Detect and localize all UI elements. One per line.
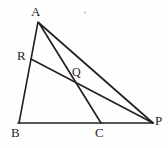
geometry-figure: A R Q B C P (0, 0, 168, 148)
figure-canvas (0, 0, 168, 148)
scan-speck (84, 11, 86, 14)
vertex-label-q: Q (72, 66, 81, 79)
vertex-label-b: B (11, 126, 20, 139)
vertex-label-c: C (95, 126, 104, 139)
segment-ac (39, 23, 101, 123)
vertex-label-r: R (17, 49, 26, 62)
vertex-label-a: A (31, 5, 40, 18)
vertex-label-p: P (155, 114, 162, 127)
segment-ab (19, 22, 38, 123)
